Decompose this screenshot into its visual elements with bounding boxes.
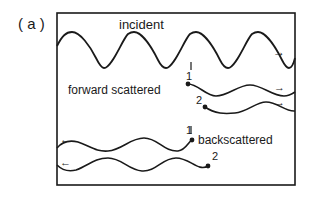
- incident-label: incident: [119, 17, 164, 32]
- forward-scattered-label: forward scattered: [68, 83, 161, 97]
- back-2-label: 2: [212, 150, 218, 162]
- panel-label: ( a ): [18, 15, 45, 32]
- forward-2-label: 2: [196, 94, 202, 106]
- forward-1-arrow-right-icon: →: [274, 81, 285, 93]
- scattering-diagram: ( a ) incident → forward scattered 1 → 2…: [0, 0, 312, 200]
- forward-1-label: 1: [186, 70, 192, 82]
- frame-box: [57, 13, 295, 185]
- forward-2-arrow-right-icon: →: [274, 96, 285, 108]
- incident-arrow-right-icon: →: [273, 45, 285, 59]
- back-1-arrow-left-icon: ←: [60, 133, 71, 145]
- back-1-wave: [57, 138, 192, 151]
- backscattered-label: backscattered: [198, 133, 273, 147]
- incident-wave: [57, 32, 295, 68]
- back-2-wave: [57, 158, 208, 171]
- back-2-arrow-left-icon: ←: [60, 156, 71, 168]
- back-1-label: 1: [186, 124, 192, 136]
